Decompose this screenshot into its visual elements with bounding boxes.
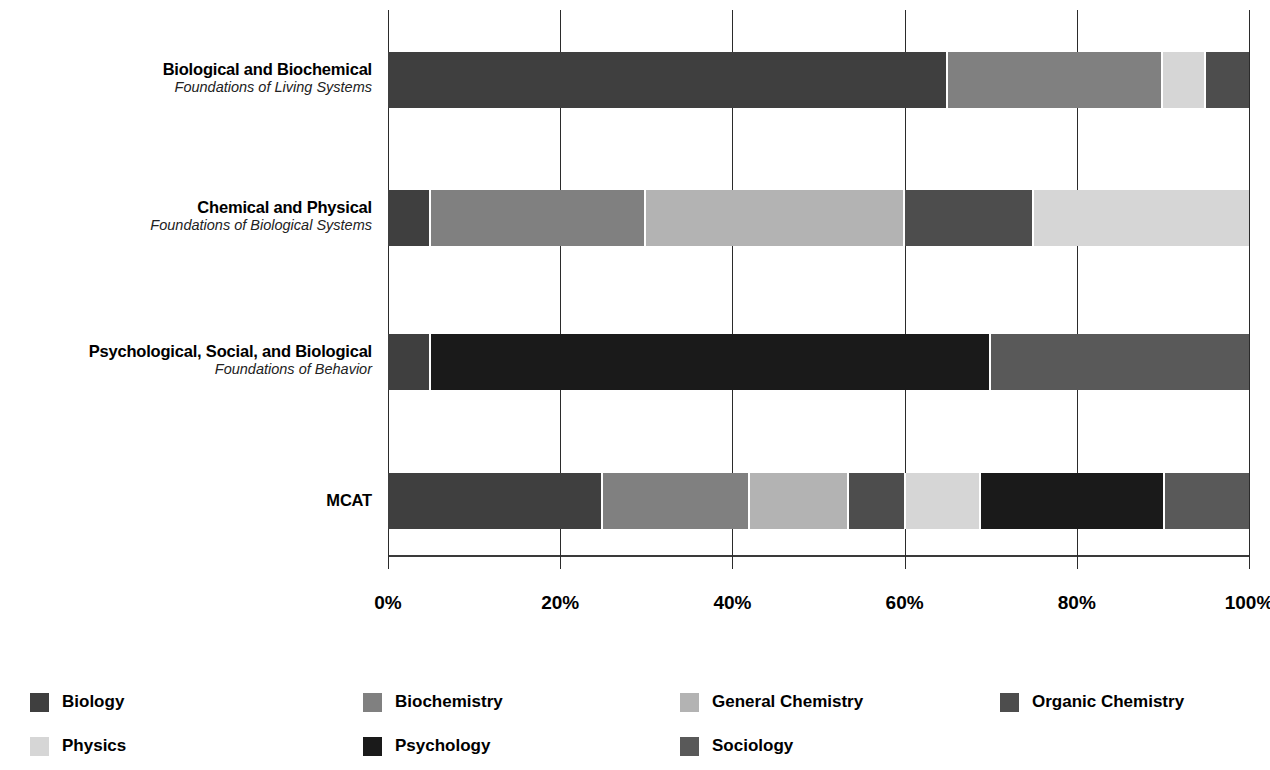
x-tick-label-100: 100%: [1225, 592, 1270, 614]
legend-swatch-icon: [1000, 693, 1019, 712]
category-title: Psychological, Social, and Biological: [0, 342, 372, 361]
x-axis-line: [388, 555, 1249, 557]
legend-label: Biochemistry: [395, 692, 503, 712]
chart-root: Biological and BiochemicalFoundations of…: [0, 0, 1270, 770]
legend-item-physics[interactable]: Physics: [30, 736, 126, 756]
bar-segment-general-chemistry[interactable]: [750, 473, 850, 529]
x-tick-100: [1249, 555, 1250, 569]
x-tick-label-40: 40%: [713, 592, 751, 614]
chart-legend: BiologyBiochemistryGeneral ChemistryOrga…: [0, 686, 1270, 770]
category-title: MCAT: [0, 491, 372, 510]
bar-segment-biology[interactable]: [388, 52, 948, 108]
x-tick-60: [905, 555, 906, 569]
stacked-bar-1: [388, 190, 1249, 246]
legend-item-biochemistry[interactable]: Biochemistry: [363, 692, 503, 712]
bar-segment-physics[interactable]: [1163, 52, 1206, 108]
bar-segment-sociology[interactable]: [991, 334, 1249, 390]
legend-row-0: BiologyBiochemistryGeneral ChemistryOrga…: [0, 686, 1270, 730]
legend-item-psychology[interactable]: Psychology: [363, 736, 490, 756]
x-tick-label-20: 20%: [541, 592, 579, 614]
x-tick-label-60: 60%: [886, 592, 924, 614]
bar-segment-physics[interactable]: [1034, 190, 1249, 246]
legend-label: Psychology: [395, 736, 490, 756]
bar-segment-biology[interactable]: [388, 473, 603, 529]
bar-segment-biochemistry[interactable]: [431, 190, 646, 246]
category-label-1: Chemical and PhysicalFoundations of Biol…: [0, 198, 372, 235]
stacked-bar-3: [388, 473, 1249, 529]
legend-label: Physics: [62, 736, 126, 756]
x-tick-label-0: 0%: [374, 592, 401, 614]
bar-segment-organic-chemistry[interactable]: [905, 190, 1034, 246]
category-subtitle: Foundations of Biological Systems: [0, 217, 372, 234]
category-subtitle: Foundations of Behavior: [0, 361, 372, 378]
legend-swatch-icon: [680, 737, 699, 756]
x-tick-80: [1077, 555, 1078, 569]
category-title: Biological and Biochemical: [0, 60, 372, 79]
gridline-100: [1249, 10, 1250, 555]
legend-row-1: PhysicsPsychologySociology: [0, 730, 1270, 770]
legend-label: Sociology: [712, 736, 793, 756]
bar-segment-physics[interactable]: [906, 473, 981, 529]
bar-segment-biochemistry[interactable]: [948, 52, 1163, 108]
category-label-2: Psychological, Social, and BiologicalFou…: [0, 342, 372, 379]
legend-swatch-icon: [30, 737, 49, 756]
bar-segment-biology[interactable]: [388, 334, 431, 390]
category-label-0: Biological and BiochemicalFoundations of…: [0, 60, 372, 97]
legend-item-biology[interactable]: Biology: [30, 692, 124, 712]
bar-segment-organic-chemistry[interactable]: [849, 473, 906, 529]
legend-item-organic-chemistry[interactable]: Organic Chemistry: [1000, 692, 1184, 712]
legend-label: Biology: [62, 692, 124, 712]
bar-segment-organic-chemistry[interactable]: [1206, 52, 1249, 108]
legend-swatch-icon: [363, 737, 382, 756]
bar-segment-sociology[interactable]: [1165, 473, 1249, 529]
legend-swatch-icon: [363, 693, 382, 712]
x-tick-40: [732, 555, 733, 569]
x-tick-label-80: 80%: [1058, 592, 1096, 614]
legend-item-general-chemistry[interactable]: General Chemistry: [680, 692, 863, 712]
bar-segment-psychology[interactable]: [431, 334, 991, 390]
x-tick-0: [388, 555, 389, 569]
legend-item-sociology[interactable]: Sociology: [680, 736, 793, 756]
category-subtitle: Foundations of Living Systems: [0, 79, 372, 96]
category-label-3: MCAT: [0, 491, 372, 510]
legend-swatch-icon: [680, 693, 699, 712]
stacked-bar-0: [388, 52, 1249, 108]
bar-segment-biology[interactable]: [388, 190, 431, 246]
bar-segment-general-chemistry[interactable]: [646, 190, 904, 246]
bar-segment-psychology[interactable]: [981, 473, 1165, 529]
legend-label: General Chemistry: [712, 692, 863, 712]
legend-swatch-icon: [30, 693, 49, 712]
category-title: Chemical and Physical: [0, 198, 372, 217]
bar-segment-biochemistry[interactable]: [603, 473, 749, 529]
stacked-bar-2: [388, 334, 1249, 390]
legend-label: Organic Chemistry: [1032, 692, 1184, 712]
x-tick-20: [560, 555, 561, 569]
